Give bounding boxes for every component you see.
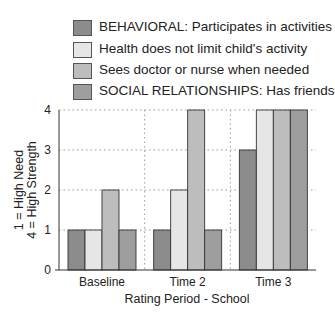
bar [239, 150, 256, 270]
x-axis-label: Rating Period - School [124, 292, 249, 306]
x-tick-label: Time 3 [255, 275, 292, 289]
bar [119, 230, 136, 270]
y-tick-label: 2 [44, 183, 51, 197]
y-tick-label: 1 [44, 223, 51, 237]
y-tick-label: 4 [44, 103, 51, 117]
bar [154, 230, 171, 270]
bar [68, 230, 85, 270]
bar [85, 230, 102, 270]
y-tick-label: 0 [44, 263, 51, 277]
x-tick-label: Time 2 [170, 275, 207, 289]
bar [171, 190, 188, 270]
bars [68, 110, 307, 270]
y-tick-label: 3 [44, 143, 51, 157]
bar [273, 110, 290, 270]
bar [205, 230, 222, 270]
bar [256, 110, 273, 270]
x-tick-label: Baseline [79, 275, 125, 289]
bar [188, 110, 205, 270]
y-axis-label-line2: 4 = High Strength [25, 141, 39, 239]
y-axis-label-line1: 1 = High Need [12, 150, 26, 230]
bar [102, 190, 119, 270]
bar [290, 110, 307, 270]
